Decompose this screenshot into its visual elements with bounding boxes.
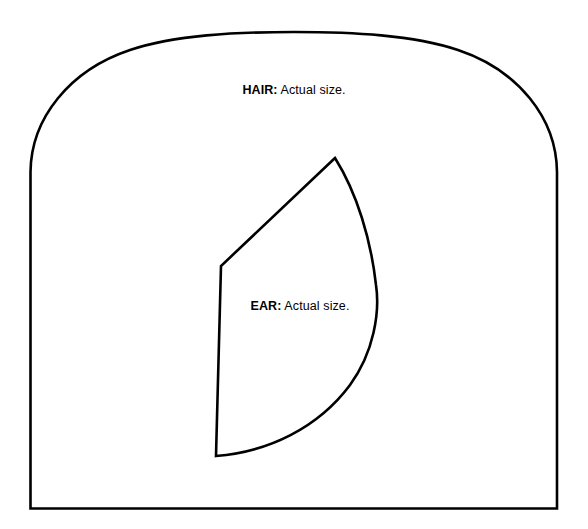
ear-piece-label-note: Actual size.: [281, 299, 349, 313]
ear-piece-label-name: EAR:: [251, 299, 282, 313]
hair-piece-label-name: HAIR:: [242, 83, 277, 97]
pattern-sheet: HAIR: Actual size. EAR: Actual size.: [0, 0, 588, 529]
pattern-shapes-canvas: [0, 0, 588, 529]
ear-piece-label: EAR: Actual size.: [251, 300, 350, 313]
hair-piece-label-note: Actual size.: [278, 83, 346, 97]
hair-piece-label: HAIR: Actual size.: [242, 84, 345, 97]
